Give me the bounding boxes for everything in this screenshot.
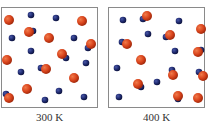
- label-300k: 300 K: [1, 111, 98, 123]
- red-atom: [22, 84, 32, 94]
- red-atom: [4, 93, 14, 103]
- red-atom: [193, 47, 203, 57]
- red-atom: [24, 27, 34, 37]
- red-atom: [136, 55, 146, 65]
- blue-atom: [81, 94, 88, 101]
- red-atom: [122, 39, 132, 49]
- blue-atom: [53, 15, 60, 22]
- red-atom: [86, 39, 96, 49]
- red-atom: [165, 30, 175, 40]
- blue-atom: [120, 17, 127, 24]
- blue-atom: [116, 94, 123, 101]
- blue-atom: [145, 31, 152, 38]
- blue-atom: [28, 48, 35, 55]
- red-atom: [173, 91, 183, 101]
- blue-atom: [9, 35, 16, 42]
- red-atom: [41, 64, 51, 74]
- blue-atom: [172, 48, 179, 55]
- label-400k: 400 K: [108, 111, 205, 123]
- red-atom: [69, 73, 79, 83]
- red-atom: [77, 16, 87, 26]
- red-atom: [168, 70, 178, 80]
- blue-atom: [56, 88, 63, 95]
- blue-atom: [176, 18, 183, 25]
- particle-diagram: [0, 0, 210, 126]
- blue-atom: [42, 97, 49, 104]
- red-atom: [44, 33, 54, 43]
- red-atom: [57, 49, 67, 59]
- blue-atom: [28, 12, 35, 19]
- red-atom: [193, 93, 203, 103]
- red-atom: [198, 71, 208, 81]
- blue-atom: [83, 60, 90, 67]
- blue-atom: [18, 69, 25, 76]
- blue-atom: [114, 65, 121, 72]
- red-atom: [2, 55, 12, 65]
- red-atom: [196, 24, 206, 34]
- blue-atom: [71, 35, 78, 42]
- red-atom: [4, 15, 14, 25]
- red-atom: [142, 11, 152, 21]
- blue-atom: [154, 79, 161, 86]
- red-atom: [133, 79, 143, 89]
